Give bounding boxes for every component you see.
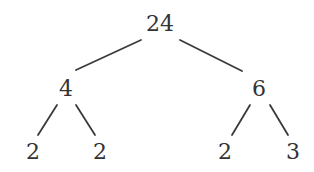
edge-6-to-3	[270, 105, 288, 135]
node-4: 4	[59, 78, 73, 100]
edge-24-to-6	[180, 40, 242, 71]
node-leaf-2-second: 2	[93, 141, 107, 163]
edge-4-to-2-left	[38, 105, 57, 135]
edge-6-to-2	[232, 105, 250, 135]
factor-tree-diagram: 24 4 6 2 2 2 3	[0, 0, 314, 172]
node-leaf-2-first: 2	[26, 141, 40, 163]
edge-24-to-4	[76, 40, 141, 70]
node-root-24: 24	[146, 13, 174, 35]
node-leaf-3: 3	[286, 141, 300, 163]
node-6: 6	[252, 78, 266, 100]
node-leaf-2-third: 2	[218, 141, 232, 163]
edge-4-to-2-right	[76, 105, 95, 135]
